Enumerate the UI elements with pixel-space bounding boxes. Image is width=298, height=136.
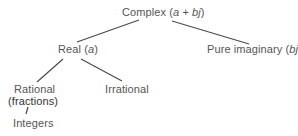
node-integers: Integers <box>13 117 54 129</box>
node-real: Real (a) <box>58 43 98 55</box>
irrational-label: Irrational <box>105 83 149 95</box>
rational-label: Rational <box>14 83 55 95</box>
real-close-paren: ) <box>94 43 98 55</box>
node-complex: Complex (a + bj) <box>122 6 205 18</box>
rational-sublabel: (fractions) <box>8 95 58 107</box>
pure-imaginary-label: Pure imaginary <box>207 43 282 55</box>
edge-rational-integers <box>26 107 28 114</box>
diagram-edges <box>0 0 298 136</box>
node-rational-sublabel: (fractions) <box>8 95 58 107</box>
edge-complex-pure-imaginary <box>172 21 249 44</box>
pure-imaginary-var-bj: bj <box>289 43 298 55</box>
real-label: Real <box>58 43 81 55</box>
node-irrational: Irrational <box>105 83 149 95</box>
node-rational: Rational <box>14 83 55 95</box>
edge-real-irrational <box>81 59 122 81</box>
complex-var-bj: bj <box>192 6 201 18</box>
number-classification-diagram: Complex (a + bj) Real (a) Pure imaginary… <box>0 0 298 136</box>
complex-plus: + <box>179 6 192 18</box>
edge-real-rational <box>37 59 63 82</box>
complex-label: Complex <box>122 6 166 18</box>
complex-close-paren: ) <box>201 6 205 18</box>
integers-label: Integers <box>13 117 54 129</box>
node-pure-imaginary: Pure imaginary (bj) <box>207 43 298 55</box>
edge-complex-real <box>77 20 139 42</box>
